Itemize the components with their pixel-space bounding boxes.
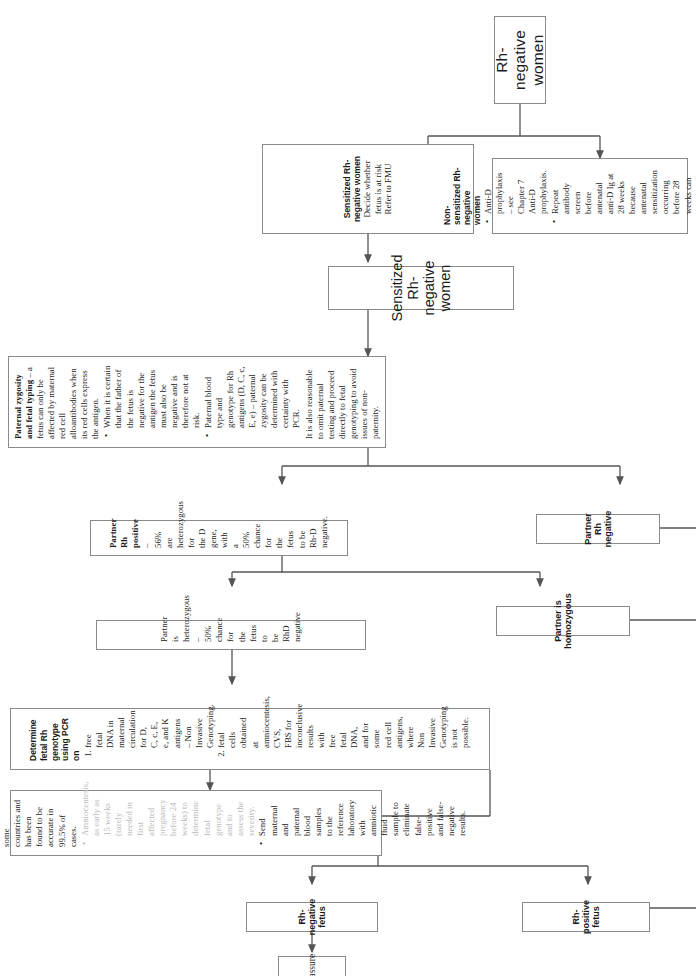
rh-positive-fetus-label: Rh-positive fetus: [571, 900, 601, 934]
node-determine-genotype-pcr: Determine fetal Rh genotype using PCR on…: [10, 708, 490, 770]
list-item: Paternal blood type and genotype for Rh …: [203, 365, 303, 428]
node-sensitized-small-line2: Refer to FMU: [383, 164, 394, 215]
genotype-intro-text: – has become routine in some countries a…: [0, 800, 78, 847]
flowchart-canvas: Rh-negative women Sensitized Rh-negative…: [0, 0, 696, 976]
node-sensitized-small-head: Sensitized Rh-negative women: [342, 152, 362, 226]
node-sensitized-heading-label: Sensitized Rh-negative women: [389, 255, 453, 322]
node-non-sensitized: Non-sensitized Rh-negative women Anti-D …: [492, 158, 688, 234]
list-item: Send maternal and paternal blood samples…: [257, 799, 467, 836]
genotype-intro-paragraph: Fetal Rh genotype determination in mater…: [0, 799, 79, 847]
paternal-intro-paragraph: Paternal zygosity and fetal typing – a f…: [13, 365, 102, 439]
list-item: Anti-D prophylaxis – see Chapter 7 Anti-…: [483, 167, 549, 214]
list-item: Amniocentesis, as early as 15 weeks (rar…: [80, 799, 257, 836]
node-sensitized-small-line1: Decide whether fetus is at risk: [362, 152, 384, 226]
paternal-intro-text: – a fetus can only be affected by matern…: [24, 367, 100, 439]
node-sensitized-heading: Sensitized Rh-negative women: [328, 266, 514, 310]
partner-rh-negative-label: Partner Rh negative: [583, 511, 613, 548]
partner-rh-positive-head: Partner Rh positive: [108, 519, 140, 548]
genotype-bullets: Amniocentesis, as early as 15 weeks (rar…: [80, 799, 469, 847]
list-item: fetal cells obtained at amniocentesis, C…: [216, 717, 471, 748]
paternal-heading: Paternal zygosity and fetal typing: [13, 374, 34, 439]
partner-rh-positive-body: – 56% are heterozygous for the D gene, w…: [141, 501, 328, 548]
node-root: Rh-negative women: [494, 16, 546, 104]
node-reassure-right: Reassure: [278, 956, 346, 976]
node-non-sensitized-head: Non-sensitized Rh-negative women: [442, 167, 482, 225]
paternal-bullets: When it is certain that the father of th…: [102, 365, 302, 439]
list-item: When it is certain that the father of th…: [102, 365, 202, 428]
paternal-tail-text: It is also reasonable to omit paternal t…: [304, 365, 382, 439]
node-partner-heterozygous: Partner is heterozygous – 50% chance for…: [96, 620, 366, 650]
node-partner-rh-positive: Partner Rh positive – 56% are heterozygo…: [90, 520, 348, 556]
node-paternal-zygosity: Paternal zygosity and fetal typing – a f…: [8, 356, 386, 448]
list-item: free fetal DNA in maternal circulation f…: [83, 717, 216, 748]
reassure-right-label: Reassure: [307, 954, 317, 976]
list-item: Repeat antibody screen before antenatal …: [550, 167, 696, 214]
node-partner-rh-negative: Partner Rh negative: [536, 514, 660, 544]
rh-negative-fetus-label: Rh-negative fetus: [297, 899, 327, 936]
partner-homozygous-label: Partner is homozygous: [553, 593, 573, 649]
node-root-label: Rh-negative women: [493, 24, 547, 96]
partner-heterozygous-text: Partner is heterozygous – 50% chance for…: [159, 628, 303, 642]
pcr-heading: Determine fetal Rh genotype using PCR on: [28, 717, 82, 761]
node-rh-positive-fetus: Rh-positive fetus: [522, 902, 650, 932]
node-fetal-genotype-maternal-plasma: Fetal Rh genotype determination in mater…: [10, 790, 382, 856]
node-rh-negative-fetus: Rh-negative fetus: [246, 902, 378, 932]
node-partner-homozygous: Partner is homozygous: [496, 606, 630, 636]
partner-rh-positive-text: Partner Rh positive – 56% are heterozygo…: [108, 528, 330, 548]
node-non-sensitized-bullets: Anti-D prophylaxis – see Chapter 7 Anti-…: [483, 167, 696, 225]
pcr-list: free fetal DNA in maternal circulation f…: [83, 717, 472, 761]
